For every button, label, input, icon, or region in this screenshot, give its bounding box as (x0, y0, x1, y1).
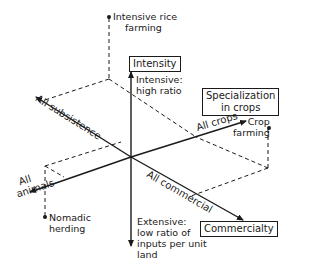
extensive-line3: inputs per unit (137, 238, 207, 249)
herding-point (43, 215, 47, 219)
crop-proj-crops (196, 137, 268, 168)
extensive-line4: land (137, 249, 207, 260)
rice-label-line1: Intensive rice (113, 11, 177, 22)
crop-farming-label: Crop farming (246, 116, 270, 138)
nomadic-herding-label: Nomadic herding (49, 212, 91, 234)
intensive-label-line2: high ratio (136, 85, 183, 96)
specialization-title-box: Specialization in crops (202, 88, 279, 116)
rice-label: Intensive rice farming (113, 11, 177, 33)
rice-proj-subsistence (45, 79, 109, 100)
commercialty-title-box: Commercialty (200, 221, 278, 237)
extensive-line1: Extensive: (137, 216, 207, 227)
crop-proj-commercial (191, 168, 268, 196)
rice-point (107, 15, 111, 19)
specialization-line1: Specialization (206, 90, 275, 102)
intensive-label: Intensive: high ratio (136, 74, 183, 96)
intensity-title-box: Intensity (129, 56, 181, 72)
specialization-line2: in crops (206, 102, 275, 114)
extensive-label: Extensive: low ratio of inputs per unit … (137, 216, 207, 260)
herding-proj-animals (45, 142, 121, 166)
commercial-axis (131, 157, 243, 220)
extensive-line2: low ratio of (137, 227, 207, 238)
intensive-label-line1: Intensive: (136, 74, 183, 85)
nomadic-herding-line2: herding (49, 223, 91, 234)
crop-farming-line2: farming (233, 127, 270, 138)
nomadic-herding-line1: Nomadic (49, 212, 91, 223)
crop-farming-line1: Crop (246, 116, 270, 127)
rice-label-line2: farming (113, 22, 177, 33)
